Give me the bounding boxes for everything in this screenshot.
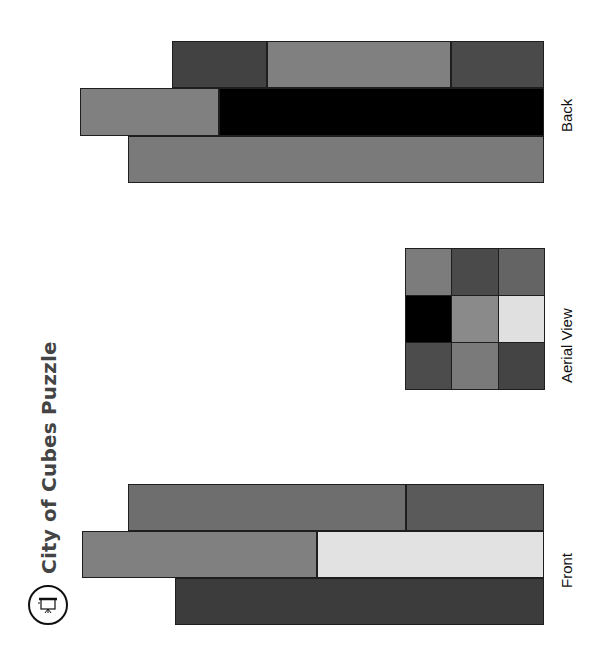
front-block [128, 484, 406, 531]
aerial-cell [451, 295, 498, 343]
back-block [267, 41, 451, 88]
puzzle-logo-icon [28, 585, 68, 625]
back-block [451, 41, 544, 88]
aerial-cell [498, 342, 545, 390]
front-block [406, 484, 544, 531]
back-view-label: Back [558, 99, 575, 132]
aerial-view-label: Aerial View [558, 308, 575, 383]
back-block [172, 41, 267, 88]
aerial-cell [451, 342, 498, 390]
aerial-view [405, 248, 544, 389]
back-block [219, 88, 544, 136]
aerial-cell [498, 248, 545, 296]
aerial-cell [498, 295, 545, 343]
aerial-cell [451, 248, 498, 296]
front-block [175, 578, 544, 625]
aerial-cell [405, 342, 452, 390]
page-title: City of Cubes Puzzle [37, 341, 61, 574]
front-block [317, 531, 544, 578]
back-block [80, 88, 219, 136]
aerial-cell [405, 248, 452, 296]
front-view-label: Front [558, 553, 575, 588]
back-block [128, 136, 544, 183]
aerial-cell [405, 295, 452, 343]
front-block [82, 531, 317, 578]
